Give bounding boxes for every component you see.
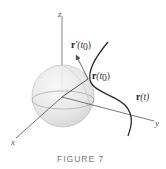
figure-caption: FIGURE 7 (57, 154, 104, 164)
curve-label: r(t) (136, 92, 149, 103)
x-axis-label: x (10, 137, 15, 147)
space-curve (90, 42, 132, 136)
tangent-label: r′(t0) (71, 40, 91, 52)
figure-diagram: z y x r′(t0) r(t0) r(t) FIGURE 7 (0, 0, 166, 169)
point-label: r(t0) (92, 71, 110, 83)
y-axis-label: y (154, 118, 159, 128)
z-axis-label: z (57, 9, 62, 19)
